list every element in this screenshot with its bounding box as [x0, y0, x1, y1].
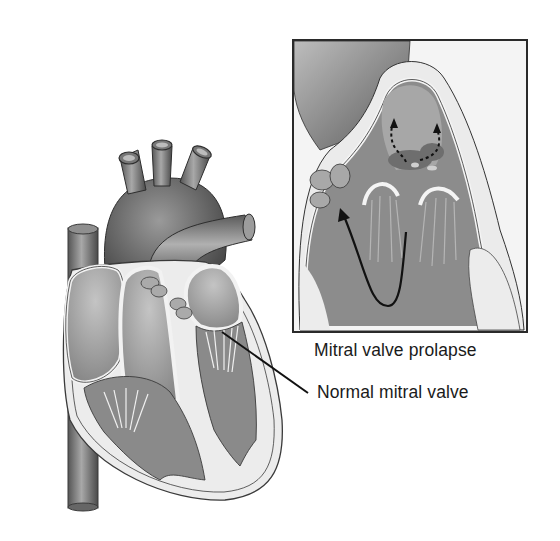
- label-normal-mitral-valve: Normal mitral valve: [317, 382, 469, 403]
- heart-diagram: [0, 0, 560, 541]
- right-atrium: [66, 266, 125, 382]
- label-mitral-valve-prolapse: Mitral valve prolapse: [314, 340, 477, 361]
- left-atrium: [186, 266, 241, 329]
- prolapse-inset: [293, 40, 527, 332]
- heart-illustration: [63, 140, 282, 511]
